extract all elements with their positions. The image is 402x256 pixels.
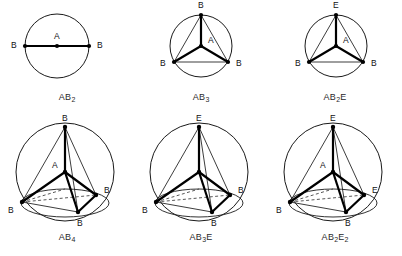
caption-ab2e-tail: E [340, 92, 346, 102]
figure-ab4: B A B B B AB4 [0, 115, 134, 256]
ab2e2-center-dot [331, 170, 335, 174]
ab2e-bond-right [336, 46, 363, 62]
caption-ab2-formula: AB [59, 92, 72, 102]
figure-ab2e2-graphic: E A B E B [268, 115, 402, 233]
ab3e-vertex-right-dot [228, 193, 232, 197]
ab3-vertex-top-dot [199, 13, 203, 17]
ab2e-left-vertex-label: B [295, 58, 301, 68]
caption-ab2e2-tail-subscript: 2 [345, 236, 349, 243]
figure-ab2e-graphic: E A B B [268, 0, 402, 95]
ab2e2-edge-apex-front [333, 127, 346, 212]
figure-ab2-graphic: A B B [0, 0, 134, 95]
ab3-right-vertex-label: B [236, 58, 242, 68]
vsepr-diagram-board: A B B AB2 B A B B AB3 [0, 0, 402, 256]
ab3e-edge-apex-front [199, 127, 212, 212]
ab3e-front-vertex-label: B [211, 218, 217, 228]
ab2e-vertex-right-dot [361, 60, 365, 64]
caption-ab2e2-formula: AB [321, 232, 334, 242]
figure-ab3-graphic: B A B B [134, 0, 268, 95]
ab4-vertex-front-dot [76, 210, 80, 214]
ab4-right-vertex-label: B [104, 185, 110, 195]
ab3-vertex-left-dot [172, 60, 176, 64]
figure-ab2e: E A B B AB2E [268, 0, 402, 115]
ab3e-vertex-front-dot [210, 210, 214, 214]
caption-ab4-formula: AB [59, 232, 72, 242]
ab4-front-vertex-label: B [77, 218, 83, 228]
ab2-right-vertex-label: B [97, 40, 103, 50]
ab2e2-vertex-right-dot [362, 193, 366, 197]
figure-ab2: A B B AB2 [0, 0, 134, 115]
ab4-bond-left [22, 172, 65, 202]
ab2e-vertex-top-dot [334, 13, 338, 17]
ab2e-right-vertex-label: B [371, 58, 377, 68]
ab2-center-dot [55, 44, 59, 48]
ab3e-right-vertex-label: B [238, 185, 244, 195]
ab4-left-vertex-label: B [8, 205, 14, 215]
ab3e-bond-left [156, 172, 199, 202]
ab3e-left-vertex-label: B [142, 205, 148, 215]
ab2e2-right-vertex-label: E [372, 185, 378, 195]
ab2e2-front-vertex-label: B [345, 218, 351, 228]
ab2e2-vertex-apex-dot [331, 125, 335, 129]
ab3-top-vertex-label: B [198, 0, 204, 10]
ab2e2-center-label: A [320, 160, 326, 170]
ab3-center-dot [199, 44, 203, 48]
caption-ab3-formula: AB [193, 92, 206, 102]
caption-ab4: AB4 [0, 232, 134, 243]
figure-ab3e: E B B B AB3E [134, 115, 268, 256]
ab3e-apex-vertex-label: E [196, 115, 202, 123]
ab2-center-label: A [54, 31, 60, 41]
ab3-vertex-right-dot [226, 60, 230, 64]
ab3e-edge-right-front [212, 195, 230, 212]
ab2e2-bond-left [290, 172, 333, 202]
ab2e-center-label: A [343, 35, 349, 45]
caption-ab2e2: AB2E2 [268, 232, 402, 243]
figure-ab2e2: E A B E B AB2E2 [268, 115, 402, 256]
ab2-vertex-right-dot [87, 44, 91, 48]
ab4-edge-right-front [78, 195, 96, 212]
ab4-vertex-apex-dot [63, 125, 67, 129]
ab2-left-vertex-label: B [11, 40, 17, 50]
caption-ab3e-formula: AB [189, 232, 202, 242]
ab2e-center-dot [334, 44, 338, 48]
ab2e2-edge-right-front [346, 195, 364, 212]
ab4-center-dot [63, 170, 67, 174]
caption-ab2-subscript: 2 [71, 96, 75, 103]
ab2e2-apex-vertex-label: E [330, 115, 336, 123]
caption-ab3e: AB3E [134, 232, 268, 243]
ab2e2-vertex-left-dot [288, 200, 292, 204]
caption-ab3: AB3 [134, 92, 268, 103]
ab2e-vertex-left-dot [307, 60, 311, 64]
ab2-vertex-left-dot [23, 44, 27, 48]
caption-ab4-subscript: 4 [71, 236, 75, 243]
ab2e-bond-left [309, 46, 336, 62]
caption-ab2e: AB2E [268, 92, 402, 103]
ab3-left-vertex-label: B [160, 58, 166, 68]
ab3-bond-right [201, 46, 228, 62]
ab3e-center-dot [197, 170, 201, 174]
ab3e-vertex-apex-dot [197, 125, 201, 129]
ab4-vertex-right-dot [94, 193, 98, 197]
ab2e-top-vertex-label: E [333, 0, 339, 10]
ab3-center-label: A [208, 35, 214, 45]
ab2e2-left-vertex-label: B [276, 205, 282, 215]
figure-ab3: B A B B AB3 [134, 0, 268, 115]
ab2e2-vertex-front-dot [344, 210, 348, 214]
ab3-bond-left [174, 46, 201, 62]
ab4-vertex-left-dot [20, 200, 24, 204]
caption-ab3-subscript: 3 [205, 96, 209, 103]
caption-ab3e-tail: E [206, 232, 212, 242]
figure-ab4-graphic: B A B B B [0, 115, 134, 233]
caption-ab2e-formula: AB [323, 92, 336, 102]
ab4-apex-vertex-label: B [62, 115, 68, 123]
ab4-edge-apex-front [65, 127, 78, 212]
ab3e-vertex-left-dot [154, 200, 158, 204]
figure-ab3e-graphic: E B B B [134, 115, 268, 233]
ab4-center-label: A [52, 160, 58, 170]
caption-ab2: AB2 [0, 92, 134, 103]
